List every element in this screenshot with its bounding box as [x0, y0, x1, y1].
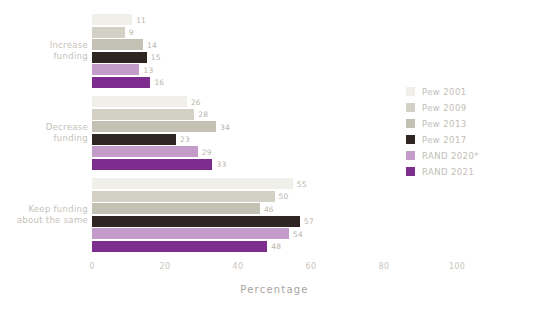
legend-swatch-icon	[406, 151, 415, 160]
bar-value-label: 46	[264, 204, 274, 213]
chart-legend: Pew 2001Pew 2009Pew 2013Pew 2017RAND 202…	[406, 84, 531, 180]
legend-item[interactable]: Pew 2013	[406, 116, 531, 131]
bar-value-label: 55	[297, 179, 307, 188]
x-axis-tick-label: 60	[306, 262, 317, 271]
bar-row: 23	[92, 134, 457, 145]
bar-row: 11	[92, 14, 457, 25]
bar-row: 55	[92, 178, 457, 189]
bar-row: 29	[92, 146, 457, 157]
bar-value-label: 54	[293, 229, 303, 238]
legend-item[interactable]: Pew 2001	[406, 84, 531, 99]
bar-value-label: 33	[216, 160, 226, 169]
bar-value-label: 13	[143, 65, 153, 74]
bar-row: 57	[92, 216, 457, 227]
legend-label: RAND 2020*	[422, 151, 479, 161]
x-axis-tick-label: 80	[379, 262, 390, 271]
category-label-line: about the same	[2, 215, 88, 226]
legend-swatch-icon	[406, 103, 415, 112]
category-label: Increasefunding	[2, 40, 88, 62]
bar-value-label: 16	[154, 78, 164, 87]
bar-group: 555046575448	[92, 178, 457, 252]
bar[interactable]	[92, 109, 194, 120]
legend-swatch-icon	[406, 87, 415, 96]
bar-value-label: 14	[147, 40, 157, 49]
bar-row: 33	[92, 159, 457, 170]
bar-row: 14	[92, 39, 457, 50]
bar-value-label: 57	[304, 217, 314, 226]
bar-value-label: 23	[180, 135, 190, 144]
bar[interactable]	[92, 159, 212, 170]
x-axis-title: Percentage	[92, 284, 457, 295]
x-axis-tick-label: 40	[233, 262, 244, 271]
bar-value-label: 50	[279, 192, 289, 201]
bar-row: 9	[92, 27, 457, 38]
bar-chart: IncreasefundingDecreasefundingKeep fundi…	[0, 0, 535, 315]
legend-item[interactable]: Pew 2009	[406, 100, 531, 115]
bar-value-label: 48	[271, 242, 281, 251]
legend-label: Pew 2013	[422, 119, 467, 129]
category-axis: IncreasefundingDecreasefundingKeep fundi…	[0, 12, 88, 260]
bar-row: 26	[92, 96, 457, 107]
category-label-line: funding	[2, 133, 88, 144]
x-axis-tick-label: 100	[449, 262, 465, 271]
bar[interactable]	[92, 203, 260, 214]
bar-row: 54	[92, 228, 457, 239]
bar-row: 46	[92, 203, 457, 214]
bar[interactable]	[92, 216, 300, 227]
bar[interactable]	[92, 14, 132, 25]
bar-value-label: 11	[136, 15, 146, 24]
category-label: Keep fundingabout the same	[2, 204, 88, 226]
category-label-line: funding	[2, 51, 88, 62]
legend-label: Pew 2009	[422, 103, 467, 113]
category-label-line: Decrease	[2, 122, 88, 133]
bar[interactable]	[92, 146, 198, 157]
legend-label: Pew 2001	[422, 87, 467, 97]
legend-item[interactable]: RAND 2021	[406, 164, 531, 179]
bar-value-label: 9	[129, 28, 134, 37]
legend-label: Pew 2017	[422, 135, 467, 145]
bar-row: 28	[92, 109, 457, 120]
bar-value-label: 29	[202, 147, 212, 156]
legend-swatch-icon	[406, 135, 415, 144]
legend-item[interactable]: RAND 2020*	[406, 148, 531, 163]
bar-row: 16	[92, 77, 457, 88]
bar-value-label: 28	[198, 110, 208, 119]
bar[interactable]	[92, 191, 275, 202]
bar-group: 11914151316	[92, 14, 457, 88]
bar[interactable]	[92, 121, 216, 132]
category-label: Decreasefunding	[2, 122, 88, 144]
bar[interactable]	[92, 64, 139, 75]
bar-value-label: 15	[151, 53, 161, 62]
bar[interactable]	[92, 228, 289, 239]
bar-group: 262834232933	[92, 96, 457, 170]
bar[interactable]	[92, 241, 267, 252]
legend-label: RAND 2021	[422, 167, 474, 177]
category-label-line: Keep funding	[2, 204, 88, 215]
bar-value-label: 34	[220, 122, 230, 131]
x-axis-tick-label: 20	[160, 262, 171, 271]
bar[interactable]	[92, 134, 176, 145]
bar[interactable]	[92, 96, 187, 107]
bar-row: 15	[92, 52, 457, 63]
bar[interactable]	[92, 52, 147, 63]
legend-item[interactable]: Pew 2017	[406, 132, 531, 147]
legend-swatch-icon	[406, 119, 415, 128]
x-axis: 020406080100	[92, 262, 457, 278]
bar[interactable]	[92, 39, 143, 50]
x-axis-tick-label: 0	[89, 262, 94, 271]
bar-row: 48	[92, 241, 457, 252]
category-label-line: Increase	[2, 40, 88, 51]
bar[interactable]	[92, 178, 293, 189]
bar-row: 34	[92, 121, 457, 132]
bar-row: 50	[92, 191, 457, 202]
bar[interactable]	[92, 77, 150, 88]
bar-row: 13	[92, 64, 457, 75]
bar-value-label: 26	[191, 97, 201, 106]
plot-area: 11914151316262834232933555046575448	[92, 12, 457, 260]
bar[interactable]	[92, 27, 125, 38]
legend-swatch-icon	[406, 167, 415, 176]
